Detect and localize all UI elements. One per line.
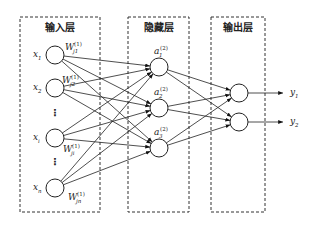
svg-text:(2): (2) — [160, 45, 168, 51]
input-node-n — [46, 179, 64, 197]
svg-text:j2: j2 — [69, 81, 76, 88]
ellipsis: ⋮ — [50, 107, 60, 118]
hidden-node-1 — [150, 58, 168, 76]
input-label-xn: xn — [33, 182, 42, 194]
svg-text:i: i — [38, 138, 40, 144]
weight-label-jn: Wjn(1) — [68, 191, 85, 205]
svg-text:(1): (1) — [74, 41, 82, 47]
edge-input-hidden — [61, 74, 153, 181]
output-node-2 — [230, 113, 248, 131]
ellipsis: ⋮ — [50, 156, 60, 167]
hidden-label-a2: a2(2) — [154, 86, 168, 99]
svg-text:j1: j1 — [72, 48, 78, 55]
neural-network-diagram: 输入层隐藏层输出层x1x2xixn⋮⋮a1(2)a2(2)a3(2)y1y2Wj… — [0, 0, 315, 231]
weight-label-j1: Wj1(1) — [65, 41, 82, 55]
input-label-xi: xi — [33, 132, 40, 144]
svg-text:ji: ji — [70, 150, 75, 157]
svg-text:2: 2 — [37, 88, 42, 94]
edge-hidden-output — [168, 70, 231, 90]
edge-hidden-output — [168, 125, 231, 145]
input-label-x2: x2 — [33, 82, 42, 94]
output-label-y2: y2 — [289, 116, 299, 128]
svg-text:1: 1 — [159, 52, 163, 58]
svg-text:2: 2 — [294, 122, 299, 128]
svg-text:2: 2 — [158, 93, 163, 99]
edge-input-hidden — [64, 56, 150, 66]
hidden-label-a3: a3(2) — [154, 126, 168, 139]
svg-text:n: n — [38, 188, 42, 194]
svg-text:(1): (1) — [71, 74, 79, 80]
input-label-x1: x1 — [33, 49, 42, 61]
edge-hidden-output — [168, 95, 230, 107]
svg-text:3: 3 — [159, 133, 163, 139]
svg-text:(2): (2) — [160, 126, 168, 132]
weight-label-ji: Wji(1) — [63, 143, 80, 157]
input-node-i — [46, 129, 64, 147]
svg-text:(2): (2) — [160, 86, 168, 92]
output-layer-title: 输出层 — [223, 21, 253, 33]
hidden-layer-title: 隐藏层 — [144, 21, 174, 33]
edge-hidden-output — [166, 72, 231, 117]
output-node-1 — [230, 84, 248, 102]
svg-text:jn: jn — [75, 198, 82, 205]
hidden-node-2 — [150, 99, 168, 117]
edge-input-hidden — [63, 92, 151, 143]
edge-hidden-output — [168, 110, 230, 121]
svg-text:(1): (1) — [77, 191, 85, 197]
svg-text:1: 1 — [38, 55, 42, 61]
input-node-1 — [46, 46, 64, 64]
svg-text:1: 1 — [295, 93, 299, 99]
edge-input-hidden — [63, 151, 150, 185]
hidden-node-3 — [150, 139, 168, 157]
svg-text:(1): (1) — [72, 143, 80, 149]
output-label-y1: y1 — [289, 87, 299, 99]
input-layer-title: 输入层 — [45, 21, 75, 33]
hidden-label-a1: a1(2) — [154, 45, 168, 58]
